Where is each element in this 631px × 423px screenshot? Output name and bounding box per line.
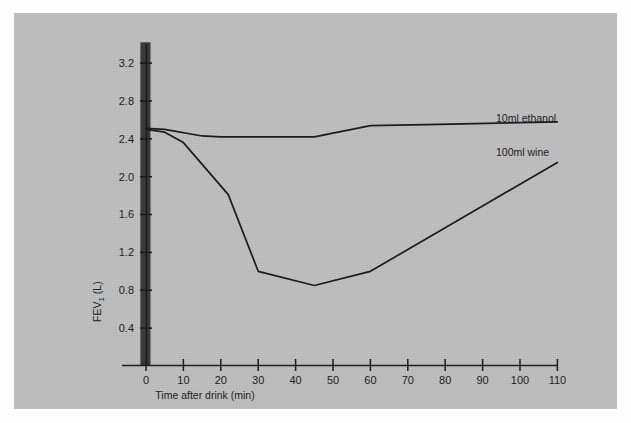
y-axis-tick-labels: 3.2 2.8 2.4 2.0 1.6 1.2 0.8 0.4 bbox=[119, 57, 134, 334]
x-tick-label-20: 20 bbox=[215, 374, 227, 386]
series-label-ethanol: 10ml ethanol bbox=[496, 112, 556, 124]
x-tick-label-0: 0 bbox=[143, 374, 149, 386]
x-axis-tick-labels: 0 10 20 30 40 50 60 70 80 90 100 110 bbox=[143, 374, 566, 386]
x-tick-label-100: 100 bbox=[511, 374, 529, 386]
y-tick-label-2.0: 2.0 bbox=[119, 171, 134, 183]
y-axis-title-unit: (L) bbox=[91, 281, 103, 297]
svg-text:FEV1 (L): FEV1 (L) bbox=[91, 281, 106, 322]
x-tick-label-110: 110 bbox=[549, 374, 567, 386]
x-axis-title: Time after drink (min) bbox=[155, 389, 254, 401]
y-tick-label-1.2: 1.2 bbox=[119, 246, 134, 258]
figure-root: 3.2 2.8 2.4 2.0 1.6 1.2 0.8 0.4 FEV1 (L) bbox=[0, 0, 631, 423]
x-tick-label-10: 10 bbox=[177, 374, 189, 386]
y-tick-label-2.8: 2.8 bbox=[119, 95, 134, 107]
x-tick-label-70: 70 bbox=[402, 374, 414, 386]
series-label-wine: 100ml wine bbox=[496, 146, 549, 158]
y-axis-title-base: FEV bbox=[91, 302, 103, 322]
x-tick-label-60: 60 bbox=[364, 374, 376, 386]
x-tick-label-30: 30 bbox=[252, 374, 264, 386]
y-tick-label-2.4: 2.4 bbox=[119, 133, 134, 145]
x-tick-label-40: 40 bbox=[289, 374, 301, 386]
y-tick-label-3.2: 3.2 bbox=[119, 57, 134, 69]
y-tick-label-0.8: 0.8 bbox=[119, 284, 134, 296]
series-line-ethanol bbox=[146, 122, 557, 137]
x-tick-label-80: 80 bbox=[439, 374, 451, 386]
y-axis-title: FEV1 (L) bbox=[91, 281, 106, 322]
y-tick-label-0.4: 0.4 bbox=[119, 322, 134, 334]
y-tick-label-1.6: 1.6 bbox=[119, 208, 134, 220]
x-tick-label-50: 50 bbox=[327, 374, 339, 386]
drink-interval-bar bbox=[140, 42, 150, 366]
x-tick-label-90: 90 bbox=[476, 374, 488, 386]
chart-canvas: 3.2 2.8 2.4 2.0 1.6 1.2 0.8 0.4 FEV1 (L) bbox=[0, 0, 631, 423]
